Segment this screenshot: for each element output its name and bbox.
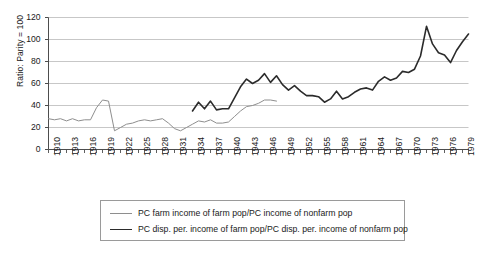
x-tick-label: 1919	[106, 136, 116, 155]
x-tick-label: 1931	[178, 136, 188, 155]
legend-item-series-1: PC farm income of farm pop/PC income of …	[110, 207, 352, 219]
y-tick-label: 20	[15, 122, 41, 132]
legend-swatch-icon	[110, 229, 132, 230]
legend-label-series-1: PC farm income of farm pop/PC income of …	[138, 208, 352, 218]
x-tick-label: 1964	[376, 136, 386, 155]
legend-swatch-icon	[110, 213, 132, 214]
x-tick-label: 1979	[466, 136, 476, 155]
x-tick-label: 1946	[268, 136, 278, 155]
x-tick-label: 1961	[358, 136, 368, 155]
series-line-2	[193, 26, 469, 111]
x-tick-label: 1967	[394, 136, 404, 155]
x-tick-label: 1958	[340, 136, 350, 155]
x-tick-label: 1916	[88, 136, 98, 155]
x-tick-label: 1973	[430, 136, 440, 155]
x-tick-label: 1913	[70, 136, 80, 155]
x-tick-label: 1949	[286, 136, 296, 155]
x-tick-label: 1940	[232, 136, 242, 155]
x-tick-label: 1955	[322, 136, 332, 155]
x-tick-label: 1922	[124, 136, 134, 155]
x-tick-label: 1934	[196, 136, 206, 155]
x-tick-label: 1925	[142, 136, 152, 155]
y-tick-label: 80	[15, 56, 41, 66]
legend-label-series-2: PC disp. per. income of farm pop/PC disp…	[138, 224, 408, 234]
legend-item-series-2: PC disp. per. income of farm pop/PC disp…	[110, 223, 408, 235]
x-tick-label: 1937	[214, 136, 224, 155]
y-tick-label: 60	[15, 78, 41, 88]
series-line-1	[49, 100, 277, 131]
y-tick-label: 120	[15, 12, 41, 22]
chart-legend: PC farm income of farm pop/PC income of …	[100, 200, 405, 241]
x-tick-label: 1910	[52, 136, 62, 155]
y-tick-label: 0	[15, 144, 41, 154]
chart-container: Ratio: Parity = 100 020406080100120 1910…	[0, 0, 477, 253]
x-tick-label: 1976	[448, 136, 458, 155]
x-tick-label: 1970	[412, 136, 422, 155]
y-tick-label: 40	[15, 100, 41, 110]
x-tick-label: 1952	[304, 136, 314, 155]
y-tick-label: 100	[15, 34, 41, 44]
x-tick-label: 1943	[250, 136, 260, 155]
x-tick-label: 1928	[160, 136, 170, 155]
